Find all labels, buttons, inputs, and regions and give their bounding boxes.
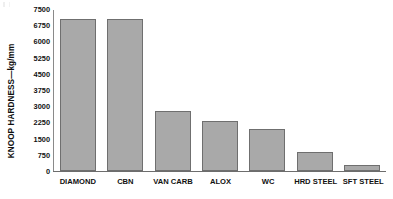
x-axis-tick-label: HRD STEEL — [292, 177, 340, 186]
y-axis-tick-labels: 0750150022503000375045005250600067507500 — [20, 10, 50, 172]
y-axis-tick-label: 6750 — [20, 22, 50, 30]
y-axis-tick-label: 3000 — [20, 103, 50, 111]
y-axis-tick-label: 2250 — [20, 119, 50, 127]
bar — [249, 129, 285, 171]
bar — [297, 152, 333, 171]
y-axis-tick-label: 4500 — [20, 71, 50, 79]
bar-series — [54, 10, 386, 171]
scan-artifact — [3, 2, 17, 7]
y-axis-tick-label: 0 — [20, 168, 50, 176]
y-axis-tick-label: 3750 — [20, 87, 50, 95]
x-axis-tick-label: WC — [244, 177, 292, 186]
bar — [60, 19, 96, 170]
knoop-hardness-bar-chart: KNOOP HARDNESS—kg/mm 0750150022503000375… — [0, 0, 393, 199]
bar — [107, 19, 143, 170]
x-axis-tick-label: DIAMOND — [54, 177, 102, 186]
bar — [202, 121, 238, 171]
y-axis-tick-label: 6000 — [20, 38, 50, 46]
x-axis-tick-labels: DIAMONDCBNVAN CARBALOXWCHRD STEELSFT STE… — [54, 177, 387, 186]
bar — [155, 111, 191, 170]
x-axis-tick-label: SFT STEEL — [339, 177, 387, 186]
y-axis-title: KNOOP HARDNESS—kg/mm — [4, 16, 20, 186]
x-axis-tick-label: CBN — [102, 177, 150, 186]
y-axis-tick-label: 1500 — [20, 136, 50, 144]
plot-area — [53, 10, 386, 172]
x-axis-tick-label: ALOX — [197, 177, 245, 186]
x-axis-tick-label: VAN CARB — [149, 177, 197, 186]
y-axis-tick-label: 7500 — [20, 6, 50, 14]
x-axis-line — [53, 171, 386, 172]
y-axis-tick-label: 750 — [20, 152, 50, 160]
bar — [344, 165, 380, 170]
y-axis-tick-label: 5250 — [20, 55, 50, 63]
